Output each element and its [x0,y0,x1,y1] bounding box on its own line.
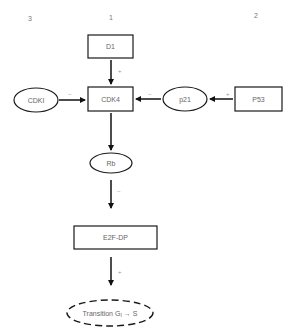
node-cdk4: CDK4 [88,87,133,111]
node-p53: P53 [235,87,282,111]
cdki-label: CDKI [28,97,45,104]
e2f-dp-label: E2F-DP [103,234,128,241]
node-rb: Rb [90,153,132,173]
p21-label: p21 [179,96,191,104]
p53-label: P53 [252,96,265,103]
cell-cycle-pathway-diagram: 3 1 2 D1 CDK4 CDKI p21 P53 Rb E2F-DP Tra… [0,0,291,335]
transition-label: Transition GI→S [83,310,138,319]
cdk4-label: CDK4 [101,96,120,103]
node-d1: D1 [88,35,133,58]
sign-cdki-cdk4: – [68,91,72,97]
node-p21: p21 [163,87,207,111]
transition-arrow-glyph: → [124,310,131,317]
transition-label-suffix: S [133,310,138,317]
node-cdki: CDKI [14,88,58,112]
sign-e2f-transition: + [118,269,122,275]
sign-p53-p21: + [226,91,230,97]
sign-p21-cdk4: – [148,91,152,97]
d1-label: D1 [106,43,115,50]
sign-rb-e2f: – [117,188,121,194]
transition-subscript: I [120,312,121,318]
node-transition: Transition GI→S [67,300,153,326]
node-e2f-dp: E2F-DP [74,226,157,249]
sign-d1-cdk4: + [118,68,122,74]
transition-label-prefix: Transition G [83,310,121,317]
column-label-1: 1 [109,14,113,21]
rb-label: Rb [107,160,116,167]
column-label-2: 2 [254,12,258,19]
column-label-3: 3 [28,15,32,22]
